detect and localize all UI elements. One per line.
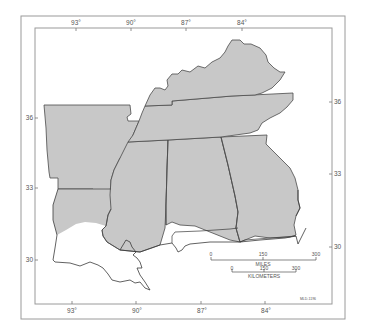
lon-label-top-90: 90° [126,19,136,26]
lon-label-bottom-87: 87° [197,307,207,314]
lat-label-right-33: 33 [334,170,342,177]
scale-km-0: 0 [231,265,234,271]
lon-label-bottom-90: 90° [132,307,142,314]
lat-label-left-33: 33 [26,184,34,191]
lon-label-top-87: 87° [181,19,191,26]
lat-label-left-30: 30 [26,256,34,263]
lon-label-bottom-84: 84° [261,307,271,314]
scale-km-300: 300 [292,265,301,271]
state-louisiana-shaded [53,189,111,235]
lon-label-top-84: 84° [237,19,247,26]
scale-bar: 0 150 300 MILES 0 150 300 KILOMETERS [210,251,321,279]
credit-code: MLD-1196 [300,297,316,301]
lon-label-bottom-93: 93° [67,307,77,314]
lat-label-right-30: 30 [334,243,342,250]
scale-miles-0: 0 [210,251,213,257]
lat-label-left-36: 36 [26,114,34,121]
scale-km-label: KILOMETERS [248,273,281,279]
scale-miles-300: 300 [312,251,321,257]
lat-label-right-36: 36 [334,98,342,105]
map-canvas: 93° 90° 87° 84° 93° 90° 87° 84° 36 33 30 [0,0,365,334]
scale-miles-150: 150 [259,251,268,257]
scale-km-150: 150 [260,265,269,271]
lon-label-top-93: 93° [71,19,81,26]
map-figure: 93° 90° 87° 84° 93° 90° 87° 84° 36 33 30 [0,0,365,334]
